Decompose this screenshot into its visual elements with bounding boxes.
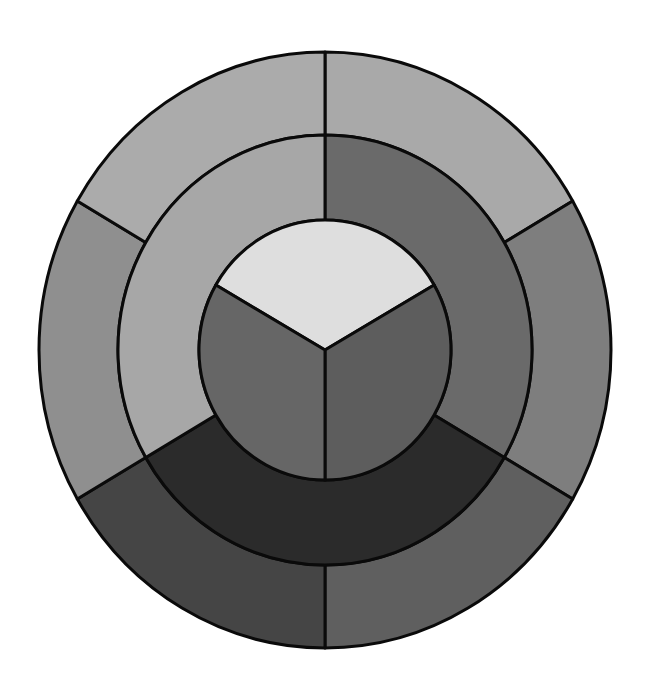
inner-circle [199, 220, 451, 480]
color-wheel-diagram [0, 0, 651, 692]
